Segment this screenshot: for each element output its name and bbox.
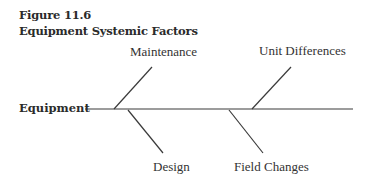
effect-label-equipment: Equipment <box>19 101 90 115</box>
bone-field-changes <box>229 110 263 153</box>
cause-label-field-changes: Field Changes <box>234 159 309 175</box>
bone-unit-differences <box>252 67 291 109</box>
bone-design <box>128 110 163 153</box>
cause-label-unit-differences: Unit Differences <box>259 43 346 59</box>
cause-label-design: Design <box>153 159 190 175</box>
cause-label-maintenance: Maintenance <box>130 44 197 60</box>
bone-maintenance <box>114 67 152 109</box>
fishbone-diagram <box>0 0 372 185</box>
